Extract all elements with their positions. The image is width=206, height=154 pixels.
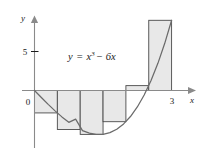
equation-exponent: 3 xyxy=(90,50,95,58)
y-axis-arrowhead xyxy=(31,16,38,24)
equation-equals: = xyxy=(77,51,83,62)
plot-canvas: y x 0 5 3 y=x3−6x xyxy=(0,0,206,154)
origin-label: 0 xyxy=(26,97,31,107)
equation-lhs: y xyxy=(67,51,73,62)
riemann-rectangle xyxy=(80,91,103,135)
equation-term: 6x xyxy=(106,51,116,62)
riemann-sum-figure: y x 0 5 3 y=x3−6x xyxy=(0,0,206,154)
x-axis-label: x xyxy=(189,95,194,105)
y-axis-label: y xyxy=(20,13,25,23)
riemann-rectangles-group xyxy=(35,20,172,134)
y-tick-label-5: 5 xyxy=(23,47,28,57)
equation-minus: − xyxy=(97,51,103,62)
riemann-rectangle xyxy=(126,86,149,91)
x-axis-arrowhead xyxy=(188,87,196,94)
riemann-rectangle xyxy=(103,91,126,122)
equation-label: y=x3−6x xyxy=(67,50,116,62)
riemann-rectangle xyxy=(57,91,80,130)
x-tick-label-3: 3 xyxy=(170,96,175,106)
